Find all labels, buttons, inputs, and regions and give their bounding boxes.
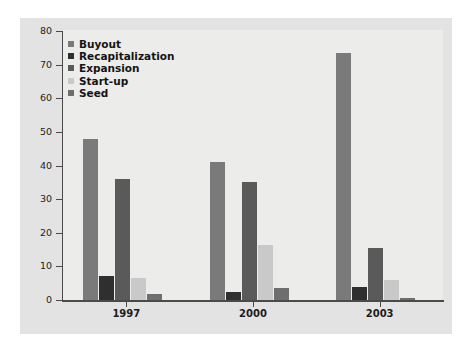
x-axis-tick: [126, 302, 127, 307]
y-axis-tick-label-text: 60: [12, 93, 52, 103]
y-axis-tick-label-text: 10: [12, 261, 52, 271]
bar-seed-2003: [400, 298, 415, 300]
legend-swatch-icon: [68, 65, 74, 71]
bar-expansion-2003: [368, 248, 383, 300]
chart-legend: BuyoutRecapitalizationExpansionStart-upS…: [68, 38, 174, 99]
y-axis-tick-label: 10: [8, 261, 52, 271]
y-axis-tick-label-text: 50: [12, 127, 52, 137]
bar-recapitalization-1997: [99, 276, 114, 300]
bar-seed-2000: [274, 288, 289, 300]
bar-recapitalization-2000: [226, 292, 241, 300]
y-axis-tick-label-text: 80: [12, 26, 52, 36]
bar-expansion-2000: [242, 182, 257, 300]
bar-start-up-2000: [258, 245, 273, 300]
x-axis-tick-label: 2003: [345, 308, 415, 319]
y-axis-tick-label: 40: [8, 161, 52, 171]
legend-label: Start-up: [79, 75, 128, 87]
y-axis-tick-label: 60: [8, 93, 52, 103]
bar-start-up-1997: [131, 278, 146, 300]
y-axis-tick-label-text: 30: [12, 194, 52, 204]
legend-item-buyout: Buyout: [68, 38, 174, 50]
legend-swatch-icon: [68, 90, 74, 96]
bar-expansion-1997: [115, 179, 130, 300]
legend-item-seed: Seed: [68, 87, 174, 99]
legend-swatch-icon: [68, 41, 74, 47]
bar-recapitalization-2003: [352, 287, 367, 300]
legend-item-expansion: Expansion: [68, 62, 174, 74]
y-axis-tick-label: 20: [8, 228, 52, 238]
x-axis-tick: [253, 302, 254, 307]
legend-swatch-icon: [68, 78, 74, 84]
legend-item-start-up: Start-up: [68, 75, 174, 87]
bar-seed-1997: [147, 294, 162, 300]
legend-item-recapitalization: Recapitalization: [68, 50, 174, 62]
bar-buyout-2000: [210, 162, 225, 300]
legend-swatch-icon: [68, 53, 74, 59]
bar-start-up-2003: [384, 280, 399, 300]
y-axis-tick-label: 70: [8, 60, 52, 70]
x-axis-tick-label: 2000: [218, 308, 288, 319]
bar-buyout-1997: [83, 139, 98, 300]
x-axis-tick-label: 1997: [91, 308, 161, 319]
legend-label: Buyout: [79, 38, 121, 50]
y-axis-tick-label: 50: [8, 127, 52, 137]
y-axis-tick-label: 30: [8, 194, 52, 204]
bar-chart: 01020304050607080 199720002003 BuyoutRec…: [0, 0, 468, 349]
y-axis-tick-label-text: 70: [12, 60, 52, 70]
y-axis-tick-label: 80: [8, 26, 52, 36]
y-axis-tick-label-text: 40: [12, 161, 52, 171]
y-axis-tick-label-text: 0: [12, 295, 52, 305]
y-axis-tick-label-text: 20: [12, 228, 52, 238]
x-axis-tick: [380, 302, 381, 307]
legend-label: Recapitalization: [79, 50, 174, 62]
y-axis-tick-label: 0: [8, 295, 52, 305]
legend-label: Expansion: [79, 62, 140, 74]
legend-label: Seed: [79, 87, 108, 99]
bar-buyout-2003: [336, 53, 351, 300]
